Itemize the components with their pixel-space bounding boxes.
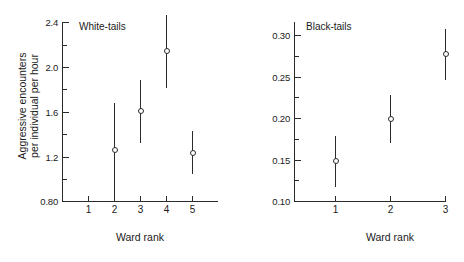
x-tick-label: 1 [79, 204, 99, 215]
x-tick-label: 3 [131, 204, 151, 215]
y-major-tick [63, 67, 69, 68]
y-tick-label: 0.10 [248, 196, 290, 207]
x-axis-title: Ward rank [350, 231, 430, 243]
x-major-tick [88, 196, 89, 202]
y-major-tick [63, 157, 69, 158]
x-major-tick [140, 196, 141, 202]
data-point-marker [112, 147, 118, 153]
x-tick-label: 5 [183, 204, 203, 215]
data-point-marker [333, 158, 339, 164]
figure-canvas: Aggressive encounters per individual per… [0, 0, 464, 262]
x-tick-label: 2 [381, 204, 401, 215]
y-minor-tick [295, 139, 299, 140]
y-tick-label: 0.30 [248, 30, 290, 41]
data-point-marker [190, 150, 196, 156]
x-axis-title: Ward rank [100, 231, 180, 243]
y-major-tick [295, 201, 301, 202]
data-point-marker [138, 108, 144, 114]
y-tick-label: 2.0 [20, 62, 58, 73]
y-minor-tick [63, 134, 67, 135]
y-tick-label: 2.4 [20, 17, 58, 28]
y-axis-line [294, 22, 295, 202]
data-point-marker [388, 116, 394, 122]
y-minor-tick [63, 179, 67, 180]
y-tick-label: 0.20 [248, 113, 290, 124]
y-tick-label: 0.25 [248, 72, 290, 83]
y-major-tick [295, 35, 301, 36]
x-major-tick [166, 196, 167, 202]
y-minor-tick [63, 45, 67, 46]
y-major-tick [63, 22, 69, 23]
y-minor-tick [295, 180, 299, 181]
y-major-tick [295, 118, 301, 119]
y-tick-label: 0.15 [248, 155, 290, 166]
x-major-tick [390, 196, 391, 202]
y-major-tick [295, 77, 301, 78]
y-major-tick [295, 160, 301, 161]
panel-title-white-tails: White-tails [79, 21, 126, 32]
y-tick-label: 1.6 [20, 107, 58, 118]
y-major-tick [63, 201, 69, 202]
data-point-marker [443, 51, 449, 57]
panel-title-black-tails: Black-tails [306, 21, 352, 32]
x-axis-line [294, 201, 446, 202]
x-tick-label: 3 [436, 204, 456, 215]
data-point-marker [164, 48, 170, 54]
x-major-tick [445, 196, 446, 202]
x-major-tick [192, 196, 193, 202]
panel-white-tails: Aggressive encounters per individual per… [0, 0, 240, 262]
y-minor-tick [295, 56, 299, 57]
y-minor-tick [295, 97, 299, 98]
x-tick-label: 2 [105, 204, 125, 215]
y-major-tick [63, 112, 69, 113]
y-minor-tick [63, 89, 67, 90]
y-tick-label: 1.2 [20, 152, 58, 163]
panel-black-tails: 0.30 0.25 0.20 0.15 0.10 1 2 3 Black-tai… [240, 0, 464, 262]
x-tick-label: 4 [157, 204, 177, 215]
x-tick-label: 1 [326, 204, 346, 215]
x-major-tick [335, 196, 336, 202]
y-tick-label: 0.80 [16, 196, 58, 207]
